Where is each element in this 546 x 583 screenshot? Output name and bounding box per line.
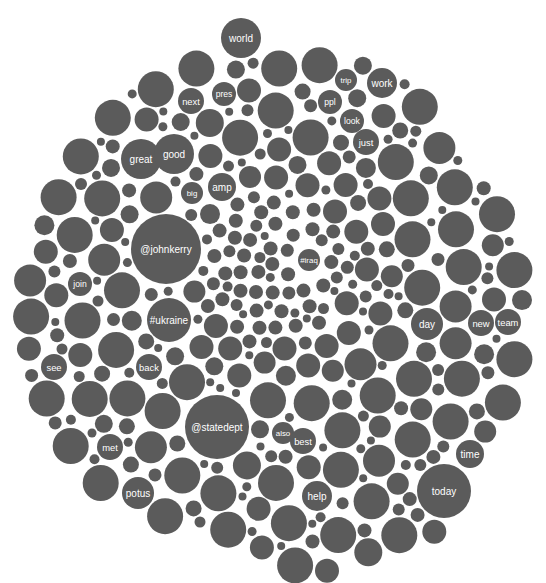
bubble-johnkerry: @johnkerry bbox=[131, 214, 201, 284]
bubble-next: next bbox=[178, 88, 204, 114]
bubble-circle bbox=[356, 158, 376, 178]
bubble-circle bbox=[49, 416, 62, 429]
bubble-circle bbox=[438, 211, 474, 247]
bubble-trip: trip bbox=[335, 69, 357, 91]
bubble-circle bbox=[416, 342, 436, 362]
bubble-circle bbox=[360, 378, 396, 414]
bubble-circle bbox=[122, 311, 142, 331]
bubble-circle bbox=[302, 47, 338, 83]
bubble-circle bbox=[237, 249, 251, 263]
bubble-circle bbox=[95, 100, 131, 136]
bubble-circle bbox=[123, 457, 139, 473]
bubble-circle bbox=[410, 126, 421, 137]
bubble-circle bbox=[344, 220, 368, 244]
bubble-circle bbox=[324, 255, 338, 269]
bubble-circle bbox=[384, 135, 393, 144]
bubble-circle bbox=[316, 512, 326, 522]
bubble-circle bbox=[124, 368, 134, 378]
bubble-ppl: ppl bbox=[318, 90, 342, 114]
bubble-circle bbox=[164, 458, 200, 494]
bubble-circle bbox=[121, 205, 139, 223]
bubble-circle bbox=[426, 450, 440, 464]
bubble-circle bbox=[304, 99, 317, 112]
bubble-circle bbox=[248, 191, 260, 203]
bubble-circle bbox=[149, 468, 162, 481]
bubble-circle bbox=[306, 535, 320, 549]
bubble-circle bbox=[348, 89, 366, 107]
bubble-circle bbox=[213, 224, 227, 238]
bubble-circle bbox=[218, 266, 232, 280]
bubble-circle bbox=[324, 412, 360, 448]
bubble-circle bbox=[84, 180, 120, 216]
bubble-circle bbox=[257, 443, 265, 451]
bubble-circle bbox=[227, 61, 245, 79]
bubble-circle bbox=[166, 347, 184, 365]
bubble-circle bbox=[123, 258, 132, 267]
bubble-circle bbox=[261, 51, 297, 87]
bubble-circle bbox=[34, 215, 54, 235]
bubble-circle bbox=[218, 337, 242, 361]
bubble-circle bbox=[239, 310, 247, 318]
bubble-circle bbox=[408, 139, 417, 148]
bubble-label: ppl bbox=[324, 97, 336, 107]
bubble-circle bbox=[51, 318, 59, 326]
bubble-circle bbox=[341, 261, 354, 274]
bubble-circle bbox=[422, 520, 446, 544]
bubble-circle bbox=[485, 385, 521, 421]
bubble-circle bbox=[233, 451, 261, 479]
bubble-circle bbox=[367, 187, 391, 211]
bubble-label: team bbox=[498, 317, 519, 328]
bubble-circle bbox=[477, 181, 491, 195]
bubble-circle bbox=[232, 389, 240, 397]
bubble-circle bbox=[392, 123, 408, 139]
bubble-circle bbox=[128, 89, 137, 98]
bubble-circle bbox=[198, 144, 222, 168]
bubble-label: great bbox=[130, 154, 153, 165]
bubble-circle bbox=[186, 500, 202, 516]
bubble-circle bbox=[178, 51, 214, 87]
bubble-circle bbox=[287, 229, 300, 242]
bubble-circle bbox=[316, 279, 330, 293]
bubble-circle bbox=[207, 249, 221, 263]
bubble-circle bbox=[190, 132, 198, 140]
bubble-circle bbox=[261, 337, 272, 348]
bubble-circle bbox=[397, 302, 413, 318]
bubble-circle bbox=[378, 361, 387, 370]
bubble-circle bbox=[333, 135, 349, 151]
bubble-circle bbox=[25, 369, 38, 382]
bubble-circle bbox=[326, 225, 340, 239]
bubble-circle bbox=[17, 337, 41, 361]
bubble-circle bbox=[512, 290, 532, 310]
bubble-circle bbox=[440, 290, 472, 322]
bubble-circle bbox=[164, 287, 173, 296]
bubble-circle bbox=[97, 138, 105, 146]
bubble-circle bbox=[395, 292, 403, 300]
bubble-circle bbox=[202, 234, 212, 244]
bubble-circle bbox=[350, 195, 366, 211]
bubble-circle bbox=[231, 299, 243, 311]
bubble-circle bbox=[295, 84, 311, 100]
bubble-best: best bbox=[290, 428, 316, 454]
bubble-circle bbox=[332, 390, 352, 410]
bubble-circle bbox=[65, 303, 101, 339]
bubble-circle bbox=[444, 361, 480, 397]
bubble-circle bbox=[95, 415, 113, 433]
bubble-circle bbox=[271, 505, 307, 541]
bubble-circle bbox=[41, 179, 77, 215]
bubble-join: join bbox=[68, 272, 92, 296]
bubble-label: work bbox=[370, 78, 393, 89]
bubble-circle bbox=[157, 378, 168, 389]
bubble-circle bbox=[145, 393, 181, 429]
bubble-circle bbox=[258, 465, 294, 501]
bubble-back: back bbox=[136, 354, 162, 380]
bubble-label: back bbox=[139, 362, 159, 373]
bubble-circle bbox=[239, 492, 247, 500]
bubble-circle bbox=[354, 483, 390, 519]
bubble-circle bbox=[171, 177, 181, 187]
bubble-circle bbox=[140, 181, 172, 213]
bubble-circle bbox=[266, 273, 275, 282]
bubble-circle bbox=[472, 197, 480, 205]
bubble-circle bbox=[296, 354, 320, 378]
bubble-circle bbox=[437, 169, 473, 205]
bubble-circle bbox=[289, 319, 303, 333]
